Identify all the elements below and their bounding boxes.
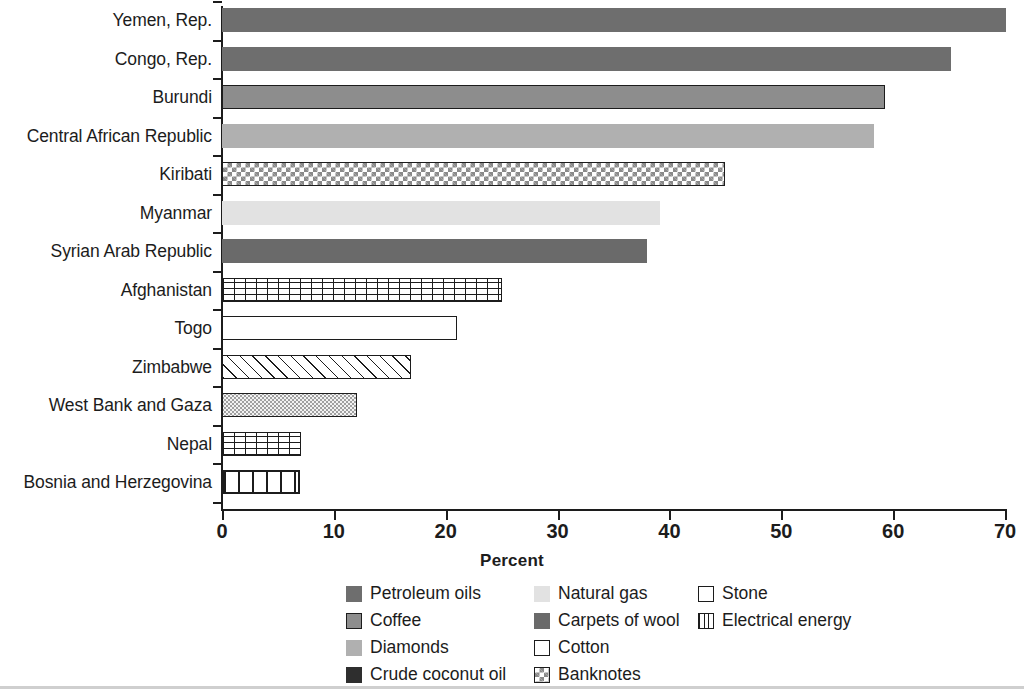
y-tick bbox=[213, 117, 222, 119]
bar bbox=[222, 239, 647, 263]
x-tick bbox=[893, 511, 895, 520]
legend-swatch-icon bbox=[346, 586, 362, 602]
bar-row: Yemen, Rep. bbox=[0, 8, 1024, 46]
y-tick bbox=[213, 155, 222, 157]
category-label: Syrian Arab Republic bbox=[0, 239, 212, 263]
legend-item[interactable]: Electrical energy bbox=[698, 607, 851, 634]
bar-row: Myanmar bbox=[0, 201, 1024, 239]
category-label: Nepal bbox=[0, 432, 212, 456]
x-tick-label: 40 bbox=[639, 520, 699, 543]
x-tick bbox=[669, 511, 671, 520]
x-tick bbox=[334, 511, 336, 520]
bar bbox=[222, 47, 951, 71]
legend-item[interactable]: Stone bbox=[698, 580, 768, 607]
bar-row: Burundi bbox=[0, 85, 1024, 123]
x-tick-label: 0 bbox=[192, 520, 252, 543]
bar-row: Syrian Arab Republic bbox=[0, 239, 1024, 277]
bar-row: Kiribati bbox=[0, 162, 1024, 200]
bar bbox=[222, 393, 357, 417]
legend-swatch-icon bbox=[534, 613, 550, 629]
y-tick bbox=[213, 348, 222, 350]
bar bbox=[222, 355, 411, 379]
legend-label: Electrical energy bbox=[722, 607, 851, 634]
legend-label: Carpets of wool bbox=[558, 607, 680, 634]
legend-swatch-icon bbox=[534, 586, 550, 602]
y-tick bbox=[213, 502, 222, 504]
legend-label: Coffee bbox=[370, 607, 421, 634]
category-label: Kiribati bbox=[0, 162, 212, 186]
x-axis-line bbox=[221, 509, 1007, 511]
x-tick bbox=[1005, 511, 1007, 520]
y-tick bbox=[213, 463, 222, 465]
legend-label: Natural gas bbox=[558, 580, 648, 607]
y-tick bbox=[213, 425, 222, 427]
category-label: Burundi bbox=[0, 85, 212, 109]
bar-chart: Yemen, Rep.Congo, Rep.BurundiCentral Afr… bbox=[0, 0, 1024, 696]
x-tick-label: 10 bbox=[304, 520, 364, 543]
legend-item[interactable]: Natural gas bbox=[534, 580, 648, 607]
legend-swatch-icon bbox=[534, 667, 550, 683]
bar bbox=[222, 124, 874, 148]
bar bbox=[222, 432, 301, 456]
x-tick-label: 30 bbox=[528, 520, 588, 543]
bar bbox=[222, 201, 660, 225]
bar bbox=[222, 470, 300, 494]
x-tick bbox=[781, 511, 783, 520]
category-label: Congo, Rep. bbox=[0, 47, 212, 71]
bar-row: West Bank and Gaza bbox=[0, 393, 1024, 431]
legend-swatch-icon bbox=[534, 640, 550, 656]
bar bbox=[222, 316, 457, 340]
bar-row: Nepal bbox=[0, 432, 1024, 470]
y-tick bbox=[213, 232, 222, 234]
legend-label: Diamonds bbox=[370, 634, 449, 661]
legend-label: Banknotes bbox=[558, 661, 641, 688]
x-tick-label: 20 bbox=[416, 520, 476, 543]
x-tick bbox=[446, 511, 448, 520]
bar-row: Togo bbox=[0, 316, 1024, 354]
legend-label: Cotton bbox=[558, 634, 610, 661]
category-label: Bosnia and Herzegovina bbox=[0, 470, 212, 494]
bar-row: Afghanistan bbox=[0, 278, 1024, 316]
x-tick-label: 50 bbox=[751, 520, 811, 543]
legend-swatch-icon bbox=[698, 613, 714, 629]
y-tick bbox=[213, 271, 222, 273]
y-tick bbox=[213, 40, 222, 42]
category-label: West Bank and Gaza bbox=[0, 393, 212, 417]
bar bbox=[222, 278, 502, 302]
bar-row: Zimbabwe bbox=[0, 355, 1024, 393]
x-tick bbox=[558, 511, 560, 520]
y-tick bbox=[213, 1, 222, 3]
category-label: Central African Republic bbox=[0, 124, 212, 148]
bar bbox=[222, 162, 725, 186]
y-tick bbox=[213, 78, 222, 80]
y-tick bbox=[213, 386, 222, 388]
bottom-divider bbox=[0, 686, 1024, 689]
bar bbox=[222, 85, 885, 109]
legend-item[interactable]: Cotton bbox=[534, 634, 610, 661]
category-label: Afghanistan bbox=[0, 278, 212, 302]
x-axis-title: Percent bbox=[0, 551, 1024, 571]
category-label: Togo bbox=[0, 316, 212, 340]
legend-item[interactable]: Petroleum oils bbox=[346, 580, 481, 607]
legend-item[interactable]: Banknotes bbox=[534, 661, 641, 688]
category-label: Zimbabwe bbox=[0, 355, 212, 379]
bar bbox=[222, 8, 1006, 32]
x-tick-label: 70 bbox=[975, 520, 1024, 543]
legend-swatch-icon bbox=[698, 586, 714, 602]
x-tick-label: 60 bbox=[863, 520, 923, 543]
legend-swatch-icon bbox=[346, 613, 362, 629]
legend-item[interactable]: Crude coconut oil bbox=[346, 661, 506, 688]
bar-row: Congo, Rep. bbox=[0, 47, 1024, 85]
legend-item[interactable]: Diamonds bbox=[346, 634, 449, 661]
legend-item[interactable]: Coffee bbox=[346, 607, 421, 634]
y-tick bbox=[213, 309, 222, 311]
x-tick bbox=[222, 511, 224, 520]
category-label: Yemen, Rep. bbox=[0, 8, 212, 32]
legend-item[interactable]: Carpets of wool bbox=[534, 607, 680, 634]
bar-row: Central African Republic bbox=[0, 124, 1024, 162]
legend-label: Stone bbox=[722, 580, 768, 607]
category-label: Myanmar bbox=[0, 201, 212, 225]
legend-swatch-icon bbox=[346, 667, 362, 683]
legend-label: Crude coconut oil bbox=[370, 661, 506, 688]
bar-row: Bosnia and Herzegovina bbox=[0, 470, 1024, 508]
